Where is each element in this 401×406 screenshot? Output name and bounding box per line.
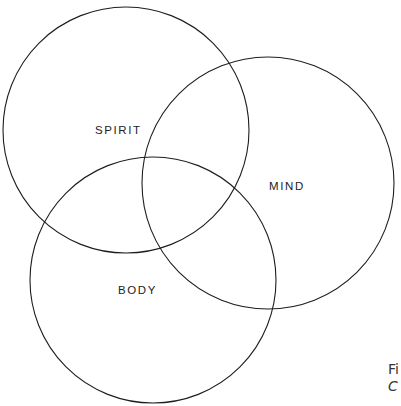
mind-label: MIND bbox=[269, 180, 305, 192]
venn-diagram: SPIRIT MIND BODY bbox=[0, 0, 401, 406]
spirit-label: SPIRIT bbox=[95, 124, 142, 136]
body-label: BODY bbox=[118, 284, 157, 296]
caption-line-2: C bbox=[388, 378, 399, 395]
mind-circle bbox=[142, 57, 394, 309]
caption-line-3 bbox=[388, 395, 399, 403]
figure-caption: Fi C bbox=[388, 361, 399, 403]
caption-line-1: Fi bbox=[388, 361, 399, 378]
body-circle bbox=[30, 157, 276, 403]
